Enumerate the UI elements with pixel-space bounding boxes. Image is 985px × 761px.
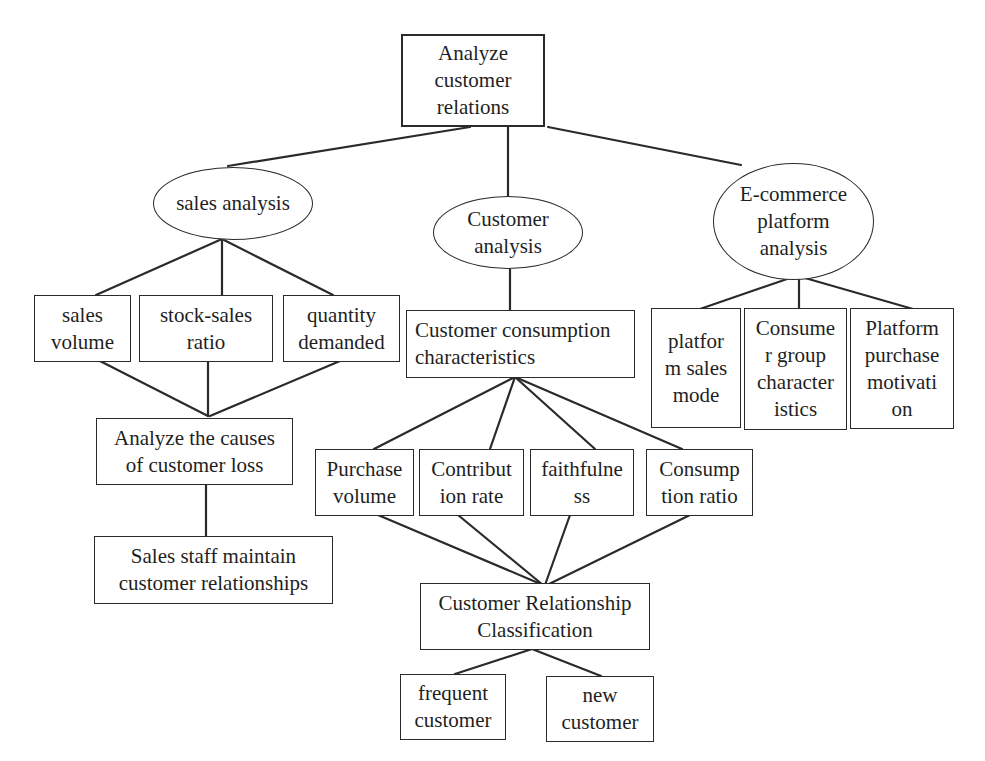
node-label: Analyze customer relations (403, 40, 543, 121)
node-label: Customer Relationship Classification (438, 590, 631, 644)
node-label: faithfulne ss (541, 456, 623, 510)
node-label: Platform purchase motivati on (865, 315, 940, 423)
edge-ratio-classification (547, 515, 690, 585)
node-analyze-customer-relations: Analyze customer relations (401, 34, 545, 127)
node-label: Purchase volume (327, 456, 403, 510)
node-customer-consumption-characteristics: Customer consumption characteristics (406, 310, 635, 378)
node-sales-staff-maintain: Sales staff maintain customer relationsh… (94, 536, 333, 604)
edge-classification-new (532, 649, 601, 676)
node-frequent-customer: frequent customer (400, 674, 506, 740)
node-causes-of-customer-loss: Analyze the causes of customer loss (96, 418, 293, 485)
node-sales-volume: sales volume (34, 295, 131, 362)
edge-contribution-classification (458, 515, 543, 585)
node-label: Sales staff maintain customer relationsh… (119, 543, 309, 597)
node-customer-relationship-classification: Customer Relationship Classification (420, 583, 650, 650)
edge-classification-frequent (455, 649, 532, 674)
node-label: Contribut ion rate (431, 456, 512, 510)
node-contribution-rate: Contribut ion rate (419, 449, 524, 516)
node-label: E-commerce platform analysis (740, 181, 847, 262)
node-faithfulness: faithfulne ss (530, 449, 634, 516)
node-label: Customer consumption characteristics (415, 317, 610, 371)
edge-ecommerce-sales-mode (700, 278, 790, 309)
node-label: sales analysis (176, 190, 290, 217)
node-consumer-group-characteristics: Consume r group character istics (744, 308, 847, 430)
edge-root-sales (228, 127, 470, 166)
node-label: Analyze the causes of customer loss (114, 425, 275, 479)
edge-volume-causes (100, 361, 208, 416)
edge-root-ecommerce (548, 127, 741, 165)
node-label: Consume r group character istics (756, 315, 835, 423)
node-purchase-volume: Purchase volume (315, 449, 414, 516)
edge-quantity-causes (210, 361, 340, 416)
node-ecommerce-platform-analysis: E-commerce platform analysis (713, 163, 874, 280)
node-consumption-ratio: Consump tion ratio (646, 449, 753, 516)
node-quantity-demanded: quantity demanded (283, 295, 400, 362)
node-sales-analysis: sales analysis (153, 167, 313, 240)
edge-purchase-classification (378, 515, 543, 585)
node-label: platfor m sales mode (665, 328, 727, 409)
node-label: Customer analysis (467, 206, 549, 260)
node-platform-sales-mode: platfor m sales mode (651, 308, 741, 428)
node-label: new customer (562, 682, 639, 736)
node-customer-analysis: Customer analysis (433, 196, 583, 269)
node-label: Consump tion ratio (659, 456, 740, 510)
edge-ecommerce-motivation (805, 278, 913, 309)
node-label: quantity demanded (298, 302, 384, 356)
node-platform-purchase-motivation: Platform purchase motivati on (850, 308, 954, 429)
edge-consumption-faithfulness (515, 377, 595, 449)
node-label: stock-sales ratio (160, 302, 252, 356)
node-stock-sales-ratio: stock-sales ratio (139, 295, 273, 362)
edge-sales-volume (96, 239, 222, 295)
node-new-customer: new customer (546, 676, 654, 742)
node-label: sales volume (51, 302, 114, 356)
edge-sales-quantity (222, 239, 333, 295)
node-label: frequent customer (415, 680, 492, 734)
